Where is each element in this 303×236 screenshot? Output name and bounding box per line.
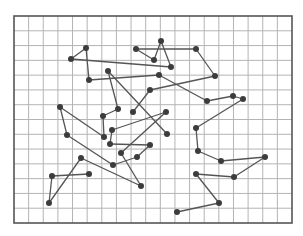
node-dot xyxy=(83,45,89,51)
node-dot xyxy=(147,142,153,148)
node-dot xyxy=(216,200,222,206)
node-dot xyxy=(118,150,124,156)
node-dot xyxy=(195,148,201,154)
node-dot xyxy=(109,127,115,133)
node-dot xyxy=(218,158,224,164)
node-dot xyxy=(107,141,113,147)
node-dot xyxy=(46,200,52,206)
node-dot xyxy=(100,113,106,119)
node-dot xyxy=(105,68,111,74)
node-dot xyxy=(204,98,210,104)
node-dot xyxy=(168,64,174,70)
node-dot xyxy=(240,96,246,102)
node-dot xyxy=(86,77,92,83)
node-dot xyxy=(130,109,136,115)
node-dot xyxy=(193,171,199,177)
node-dot xyxy=(68,56,74,62)
node-dot xyxy=(147,87,153,93)
node-dot xyxy=(64,132,70,138)
node-dot xyxy=(133,46,139,52)
node-dot xyxy=(110,162,116,168)
grid-diagram xyxy=(0,0,303,236)
node-dot xyxy=(78,155,84,161)
node-dot xyxy=(115,106,121,112)
node-dot xyxy=(174,209,180,215)
node-dot xyxy=(193,46,199,52)
node-dot xyxy=(212,73,218,79)
node-dot xyxy=(164,131,170,137)
node-dot xyxy=(231,174,237,180)
node-dot xyxy=(138,183,144,189)
node-dot xyxy=(49,173,55,179)
node-dot xyxy=(262,154,268,160)
node-dot xyxy=(101,134,107,140)
node-dot xyxy=(57,104,63,110)
node-dot xyxy=(86,171,92,177)
node-dot xyxy=(230,93,236,99)
node-dot xyxy=(151,57,157,63)
node-dot xyxy=(156,72,162,78)
node-dot xyxy=(193,125,199,131)
node-dot xyxy=(158,38,164,44)
node-dot xyxy=(134,154,140,160)
node-dot xyxy=(163,109,169,115)
